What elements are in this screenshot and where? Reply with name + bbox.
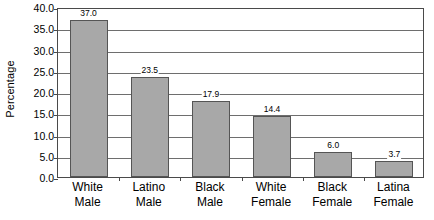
category-label-line2: Male: [179, 195, 240, 210]
bar-value-label: 37.0: [79, 9, 98, 18]
x-axis-category-label: WhiteMale: [57, 180, 118, 210]
x-axis-category-label: WhiteFemale: [241, 180, 302, 210]
bar-value-label: 23.5: [140, 66, 159, 75]
y-axis-tick-label: 40.0: [18, 3, 54, 13]
y-axis-tick-label: 10.0: [18, 131, 54, 141]
y-axis-title: Percentage: [0, 0, 20, 178]
bar-value-label: 6.0: [326, 141, 340, 150]
x-axis-category-label: LatinoMale: [118, 180, 179, 210]
y-axis-tick-label: 15.0: [18, 109, 54, 119]
bar[interactable]: [375, 161, 413, 177]
bar[interactable]: [314, 152, 352, 178]
bar-group[interactable]: 3.7: [364, 9, 425, 177]
bar-group[interactable]: 6.0: [303, 9, 364, 177]
bar-group[interactable]: 37.0: [58, 9, 119, 177]
bar-chart: Percentage 40.035.030.025.020.015.010.05…: [0, 0, 434, 220]
x-axis-category-label: BlackMale: [179, 180, 240, 210]
bar-group[interactable]: 14.4: [242, 9, 303, 177]
x-axis-category-label: LatinaFemale: [363, 180, 424, 210]
category-label-line2: Female: [302, 195, 363, 210]
x-axis-category-label: BlackFemale: [302, 180, 363, 210]
category-label-line2: Male: [118, 195, 179, 210]
bar[interactable]: [70, 20, 108, 177]
y-axis-tick-label: 25.0: [18, 67, 54, 77]
bar-group[interactable]: 17.9: [180, 9, 241, 177]
plot-area: 37.023.517.914.46.03.7: [57, 8, 424, 178]
category-label-line1: Latina: [363, 180, 424, 195]
bar[interactable]: [253, 116, 291, 177]
category-label-line1: Black: [302, 180, 363, 195]
y-axis-tick-labels: 40.035.030.025.020.015.010.05.00.0: [18, 8, 54, 178]
category-label-line2: Female: [241, 195, 302, 210]
bars-layer: 37.023.517.914.46.03.7: [58, 9, 423, 177]
bar[interactable]: [192, 101, 230, 177]
y-axis-tick-label: 0.0: [18, 173, 54, 183]
bar-value-label: 14.4: [263, 105, 282, 114]
category-label-line2: Male: [57, 195, 118, 210]
bar-value-label: 3.7: [387, 150, 401, 159]
x-axis-category-labels: WhiteMaleLatinoMaleBlackMaleWhiteFemaleB…: [57, 180, 424, 220]
bar-group[interactable]: 23.5: [119, 9, 180, 177]
category-label-line1: Latino: [118, 180, 179, 195]
y-axis-tick-label: 5.0: [18, 152, 54, 162]
category-label-line1: White: [57, 180, 118, 195]
bar-value-label: 17.9: [202, 90, 221, 99]
y-axis-title-text: Percentage: [4, 60, 16, 117]
category-label-line1: Black: [179, 180, 240, 195]
y-axis-tick-label: 20.0: [18, 88, 54, 98]
bar[interactable]: [131, 77, 169, 177]
y-axis-tick-label: 30.0: [18, 46, 54, 56]
y-axis-tick-label: 35.0: [18, 24, 54, 34]
category-label-line1: White: [241, 180, 302, 195]
category-label-line2: Female: [363, 195, 424, 210]
